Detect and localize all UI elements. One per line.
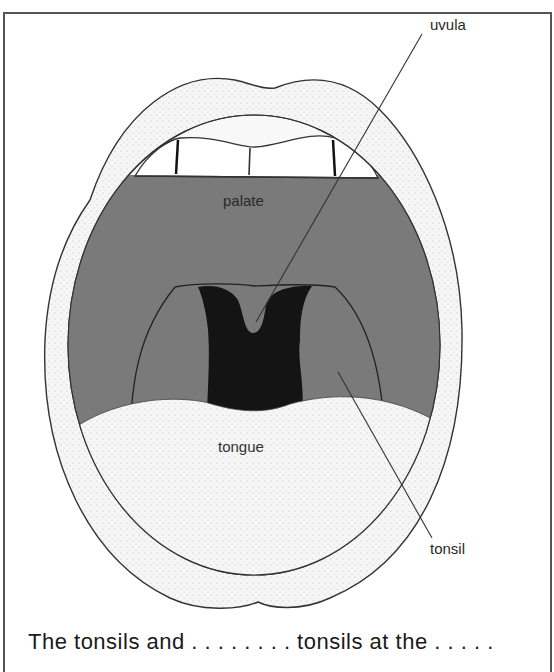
figure-caption: The tonsils and . . . . . . . . tonsils …: [28, 629, 494, 655]
label-uvula: uvula: [430, 16, 466, 33]
label-tonsil: tonsil: [430, 540, 465, 557]
label-palate: palate: [223, 192, 264, 209]
label-tongue: tongue: [218, 438, 264, 455]
